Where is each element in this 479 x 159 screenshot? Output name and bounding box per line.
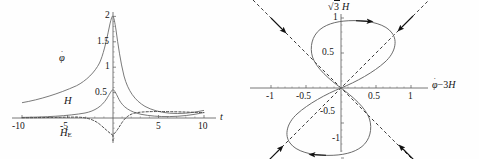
right-ytick--1: -1 — [332, 134, 340, 144]
curve-label-H: H — [64, 96, 72, 107]
left-plot-panel: -10 -5 5 10 0.5 1 1.5 2 t φ̇ H HE — [0, 0, 240, 159]
arrow-sep-upper-left — [271, 18, 284, 31]
arrow-upper-loop — [356, 21, 370, 22]
left-ytick-0.5: 0.5 — [95, 88, 107, 98]
left-x-axis-label: t — [220, 112, 223, 122]
left-xtick-5: 5 — [156, 122, 161, 132]
left-xtick--10: -10 — [12, 122, 25, 132]
arrow-sep-upper-right — [400, 16, 413, 29]
left-ytick-2: 2 — [105, 11, 110, 21]
arrow-sep-lower-right — [401, 147, 414, 159]
arrow-lower-loop — [312, 155, 326, 156]
right-xtick--0.5: -0.5 — [296, 92, 311, 102]
right-y-axis-label: √3 H — [328, 2, 349, 12]
right-plot-panel: -1 -0.5 0.5 1 -1 -0.5 0.5 1 √3 H φ̇−3H — [240, 0, 479, 159]
right-ytick--0.5: -0.5 — [320, 107, 335, 117]
left-ytick-1: 1 — [105, 62, 110, 72]
curve-label-H-E: HE — [60, 128, 72, 139]
arrow-sep-lower-left — [268, 148, 281, 159]
right-ytick-0.5: 0.5 — [322, 48, 334, 58]
left-ytick-1.5: 1.5 — [97, 37, 109, 47]
curve-label-phidot: φ̇ — [59, 53, 65, 64]
right-ytick-1: 1 — [333, 13, 338, 23]
right-xtick-1: 1 — [408, 92, 413, 102]
two-panel-figure: -10 -5 5 10 0.5 1 1.5 2 t φ̇ H HE — [0, 0, 479, 159]
left-plot-svg — [0, 0, 240, 159]
left-xtick-10: 10 — [198, 122, 208, 132]
right-xtick--1: -1 — [266, 92, 274, 102]
right-x-axis-label: φ̇−3H — [432, 80, 455, 90]
right-xtick-0.5: 0.5 — [368, 92, 380, 102]
